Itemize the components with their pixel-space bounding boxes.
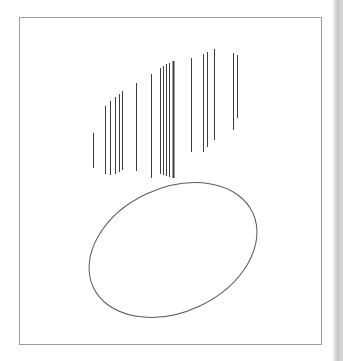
scrollbar-track[interactable]: [333, 0, 343, 361]
figure-frame: [19, 17, 322, 345]
page-background: [0, 0, 343, 361]
